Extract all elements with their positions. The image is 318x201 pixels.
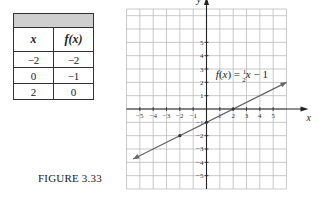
svg-text:5: 5	[200, 39, 204, 47]
function-line	[133, 82, 286, 159]
svg-text:4: 4	[200, 52, 204, 60]
svg-text:3: 3	[245, 112, 249, 120]
svg-text:−5: −5	[136, 112, 144, 120]
function-graph: xy −5−4−3−2−11234554321−1−2−3−4−5 f(x) =…	[0, 0, 318, 201]
svg-text:−3: −3	[196, 145, 204, 153]
svg-text:5: 5	[271, 112, 275, 120]
svg-text:−2: −2	[196, 132, 204, 140]
svg-text:1: 1	[200, 92, 204, 100]
y-axis-label: y	[196, 0, 202, 5]
svg-text:−4: −4	[149, 112, 157, 120]
axes: xy	[127, 0, 312, 189]
data-point	[205, 121, 208, 124]
data-point	[178, 134, 181, 137]
svg-text:4: 4	[258, 112, 262, 120]
svg-text:−4: −4	[196, 159, 204, 167]
x-axis-label: x	[305, 112, 311, 123]
svg-text:−2: −2	[176, 112, 184, 120]
svg-text:3: 3	[200, 66, 204, 74]
data-point	[232, 107, 235, 110]
svg-text:−5: −5	[196, 172, 204, 180]
svg-text:−3: −3	[163, 112, 171, 120]
svg-text:2: 2	[231, 112, 235, 120]
svg-text:2: 2	[200, 79, 204, 87]
